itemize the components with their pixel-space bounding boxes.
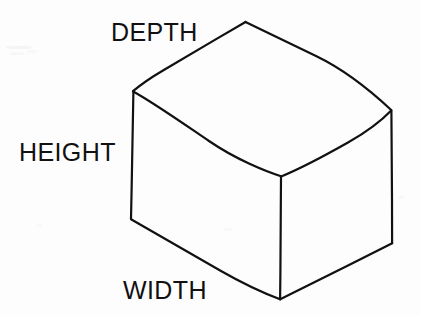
diagram-canvas: DEPTH HEIGHT WIDTH [0, 0, 421, 315]
cube-edge-left-vertical [131, 92, 133, 219]
cube-edge-top-front-right [281, 110, 391, 176]
cube-edge-top-back-right [246, 22, 392, 110]
label-depth: DEPTH [111, 20, 198, 45]
label-height: HEIGHT [19, 140, 116, 165]
cube-edge-center-vertical [280, 177, 281, 300]
cube-edge-group [131, 22, 392, 299]
cube-edge-right-vertical [391, 111, 392, 244]
cube-edge-bottom-right [280, 243, 392, 299]
cube-edge-top-front-left [133, 92, 281, 177]
label-width: WIDTH [123, 278, 207, 303]
